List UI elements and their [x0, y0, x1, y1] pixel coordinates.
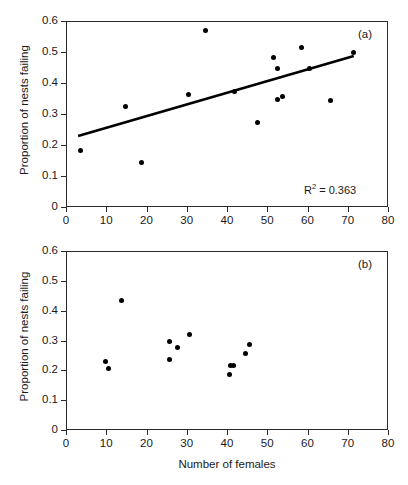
x-tick-label-b-4: 40	[207, 438, 247, 450]
x-tick-label-b-7: 70	[328, 438, 368, 450]
x-tick-b-0	[66, 430, 67, 435]
y-axis-title-b: Proportion of nests failing	[18, 247, 30, 426]
plot-frame-b	[66, 251, 388, 430]
data-point	[167, 357, 172, 362]
x-tick-label-b-3: 30	[167, 438, 207, 450]
y-tick-b-3	[61, 341, 66, 342]
x-tick-b-7	[348, 430, 349, 435]
y-tick-b-4	[61, 311, 66, 312]
x-tick-b-5	[267, 430, 268, 435]
x-tick-label-b-2: 20	[127, 438, 167, 450]
panel-b: 00.10.20.30.40.50.601020304050607080(b)P…	[0, 0, 408, 485]
x-tick-b-3	[187, 430, 188, 435]
y-tick-b-6	[61, 251, 66, 252]
x-tick-label-b-5: 50	[247, 438, 287, 450]
data-point	[106, 366, 111, 371]
y-tick-b-2	[61, 370, 66, 371]
x-axis-title: Number of females	[66, 458, 388, 470]
x-tick-b-2	[147, 430, 148, 435]
x-tick-label-b-6: 60	[288, 438, 328, 450]
x-tick-b-1	[106, 430, 107, 435]
x-tick-b-6	[308, 430, 309, 435]
x-tick-label-b-0: 0	[46, 438, 86, 450]
x-tick-label-b-8: 80	[368, 438, 408, 450]
x-tick-b-4	[227, 430, 228, 435]
data-point	[119, 298, 124, 303]
x-tick-label-b-1: 10	[86, 438, 126, 450]
y-tick-b-1	[61, 400, 66, 401]
x-tick-b-8	[388, 430, 389, 435]
data-point	[227, 372, 232, 377]
panel-tag-b: (b)	[358, 258, 372, 270]
data-point	[167, 339, 172, 344]
y-tick-b-5	[61, 281, 66, 282]
data-point	[231, 363, 236, 368]
figure-container: 00.10.20.30.40.50.601020304050607080(a)R…	[0, 0, 408, 485]
